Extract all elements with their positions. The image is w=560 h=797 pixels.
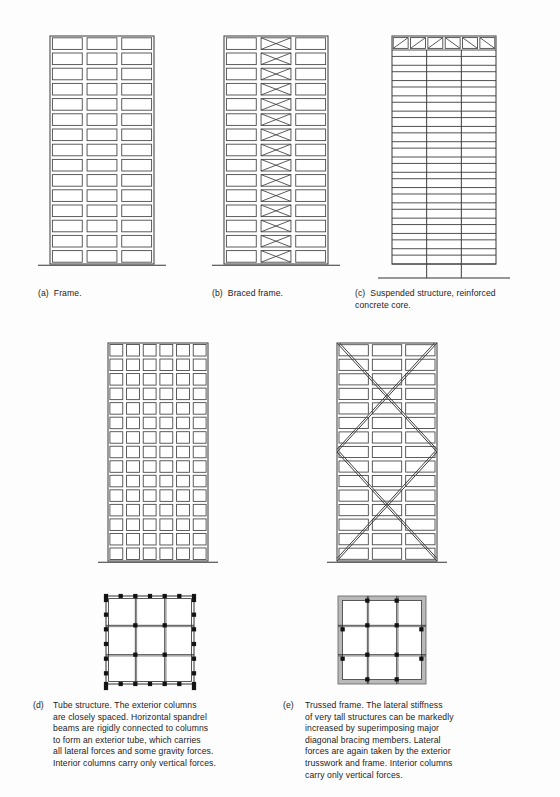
bay-opening — [122, 205, 152, 217]
tube-cell — [177, 374, 190, 386]
bay-opening — [372, 548, 401, 559]
caption-a: (a) Frame. — [38, 288, 178, 300]
tube-cell — [143, 548, 156, 560]
interior-column — [163, 624, 166, 627]
bay-opening — [87, 220, 117, 232]
bay-opening — [122, 144, 152, 156]
bay-opening — [52, 114, 82, 126]
tube-cell — [143, 432, 156, 444]
bay-opening — [52, 83, 82, 95]
interior-column — [134, 653, 137, 656]
bay-opening — [296, 114, 326, 126]
bay-opening — [296, 144, 326, 156]
tube-cell — [127, 548, 140, 560]
tube-cell — [160, 417, 173, 429]
interior-column — [366, 624, 369, 627]
tube-cell — [110, 432, 123, 444]
tube-cell — [143, 374, 156, 386]
tube-cell — [110, 403, 123, 415]
tube-cell — [110, 533, 123, 545]
bay-opening — [122, 129, 152, 141]
bay-opening — [339, 490, 368, 501]
bay-opening — [226, 83, 256, 95]
bay-opening — [52, 38, 82, 50]
perimeter-column — [163, 682, 166, 685]
tube-cell — [110, 359, 123, 371]
frame-elevation-svg — [38, 30, 168, 285]
perimeter-column — [148, 594, 151, 597]
bay-opening — [406, 388, 435, 399]
bay-opening — [52, 205, 82, 217]
tube-cell — [127, 359, 140, 371]
tube-cell — [160, 388, 173, 400]
wall-inner-face — [343, 601, 422, 680]
bay-opening — [372, 417, 401, 428]
bay-opening — [372, 446, 401, 457]
tube-cell — [127, 446, 140, 458]
bay-opening — [339, 505, 368, 516]
tube-cell — [143, 475, 156, 487]
perimeter-column — [119, 594, 122, 597]
bay-opening — [296, 159, 326, 171]
tube-cell — [193, 490, 206, 502]
tube-cell — [160, 533, 173, 545]
tube-cell — [177, 388, 190, 400]
tube-cell — [177, 548, 190, 560]
perimeter-column — [104, 657, 107, 660]
bay-opening — [372, 476, 401, 487]
panel-b-braced-frame-elevation — [212, 30, 342, 285]
wall-column — [341, 657, 344, 660]
panel-c-suspended-structure-elevation — [378, 30, 518, 285]
panel-a-tag: (a) — [38, 288, 49, 298]
tube-cell — [177, 417, 190, 429]
perimeter-column — [104, 686, 107, 689]
tube-cell — [110, 548, 123, 560]
perimeter-column — [192, 657, 195, 660]
perimeter-column — [104, 613, 107, 616]
bay-opening — [87, 235, 117, 247]
bay-opening — [226, 159, 256, 171]
perimeter-column — [192, 686, 195, 689]
bay-opening — [226, 205, 256, 217]
bay-opening — [406, 490, 435, 501]
tube-cell — [160, 403, 173, 415]
wall-column — [420, 628, 423, 631]
tube-cell — [193, 548, 206, 560]
tube-cell — [193, 403, 206, 415]
wall-column — [366, 678, 369, 681]
bay-opening — [122, 38, 152, 50]
bay-opening — [296, 251, 326, 263]
perimeter-column — [192, 613, 195, 616]
bay-opening — [226, 175, 256, 187]
bay-opening — [226, 235, 256, 247]
bay-opening — [226, 99, 256, 111]
bay-opening — [226, 129, 256, 141]
perimeter-column — [104, 672, 107, 675]
tube-cell — [193, 345, 206, 357]
bay-opening — [296, 190, 326, 202]
panel-e-plan-view — [330, 592, 450, 692]
panel-b-tag: (b) — [212, 288, 223, 298]
perimeter-column — [163, 594, 166, 597]
tube-cell — [160, 490, 173, 502]
bay-opening — [296, 205, 326, 217]
bay-opening — [226, 38, 256, 50]
tube-cell — [110, 475, 123, 487]
tube-cell — [143, 490, 156, 502]
tube-cell — [110, 446, 123, 458]
perimeter-column — [119, 682, 122, 685]
tube-cell — [127, 417, 140, 429]
perimeter-column — [192, 598, 195, 601]
tube-cell — [127, 388, 140, 400]
bay-opening — [52, 190, 82, 202]
panel-c-tag: (c) — [355, 288, 365, 298]
bay-opening — [122, 68, 152, 80]
caption-e: (e) Trussed frame. The lateral stiffness… — [283, 700, 538, 781]
tube-cell — [193, 519, 206, 531]
bay-opening — [122, 83, 152, 95]
tube-cell — [160, 432, 173, 444]
interior-column — [395, 624, 398, 627]
bay-opening — [122, 220, 152, 232]
tube-cell — [160, 359, 173, 371]
bay-opening — [406, 505, 435, 516]
